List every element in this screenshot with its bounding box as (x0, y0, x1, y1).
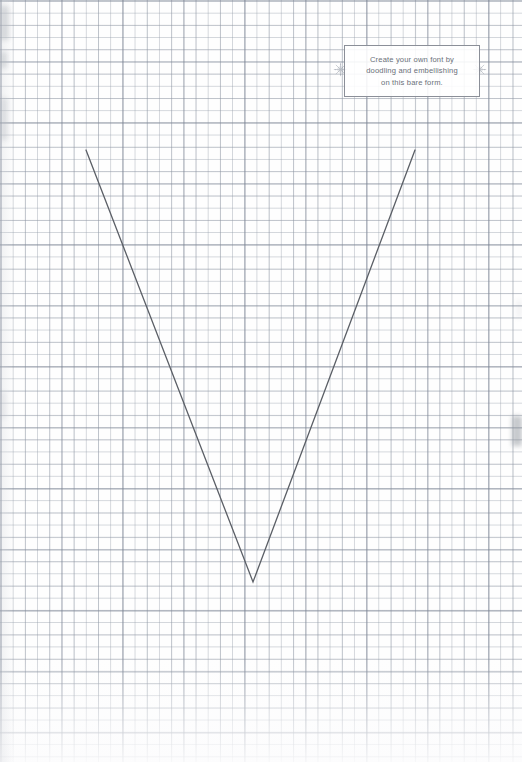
worksheet-page: Create your own font by doodling and emb… (0, 0, 522, 762)
paper-tint-overlay (0, 0, 522, 762)
graph-paper-mid-grid (0, 0, 522, 762)
scan-smudge-left-1 (0, 6, 9, 40)
letterform-outline-v (0, 0, 522, 762)
scan-smudge-right-2 (516, 300, 522, 318)
graph-paper-fine-grid (0, 0, 522, 762)
letter-v-stroke (86, 150, 415, 582)
scan-smudge-left-4 (0, 392, 6, 418)
graph-paper-major-grid (0, 0, 522, 762)
scan-smudge-left-3 (0, 98, 8, 140)
scan-smudge-right-1 (512, 416, 522, 446)
instruction-caption-text: Create your own font by doodling and emb… (360, 54, 464, 88)
scan-smudge-left-2 (0, 52, 7, 68)
instruction-caption-box: Create your own font by doodling and emb… (344, 45, 480, 97)
